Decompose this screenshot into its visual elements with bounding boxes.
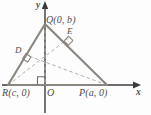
triangle-PQR (8, 24, 107, 85)
dashed-construction-lines (8, 24, 107, 85)
y-axis-arrow (42, 1, 48, 9)
vertex-label-Q: Q(0, b) (46, 15, 76, 25)
vertex-label-P: P(a, 0) (79, 88, 107, 98)
origin-label: O (47, 88, 54, 98)
right-angle-mark-origin-foot (38, 77, 46, 85)
x-axis-label: x (136, 88, 141, 98)
geometry-figure: Q(0, b) R(c, 0) P(a, 0) D E O x y (0, 0, 151, 115)
foot-label-D: D (15, 46, 22, 55)
y-axis-label: y (36, 1, 40, 11)
vertex-label-R: R(c, 0) (2, 88, 30, 98)
foot-label-E: E (67, 27, 73, 36)
altitude-from-P-to-D (26, 55, 107, 85)
